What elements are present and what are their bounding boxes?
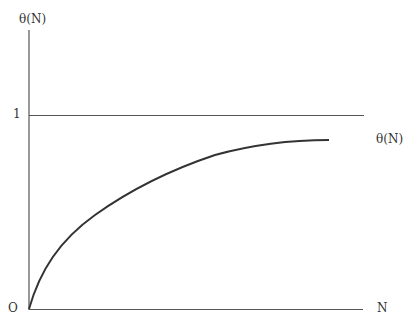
x-axis-label: N bbox=[377, 302, 388, 314]
curve-label: θ(N) bbox=[376, 133, 403, 145]
y-axis-label: θ(N) bbox=[19, 13, 46, 25]
asymptote-tick-label: 1 bbox=[13, 108, 21, 120]
chart-canvas bbox=[0, 0, 412, 323]
origin-label: O bbox=[8, 302, 18, 314]
theta-curve bbox=[29, 140, 329, 309]
